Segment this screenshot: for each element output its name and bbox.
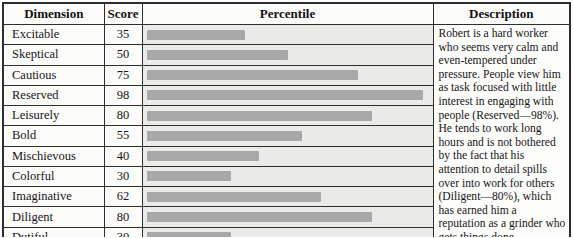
percentile-bar — [147, 50, 288, 60]
dimension-label: Excitable — [3, 25, 104, 45]
description-text: Robert is a hard worker who seems very c… — [433, 25, 570, 238]
dimension-label: Bold — [3, 126, 104, 146]
percentile-bar — [147, 70, 359, 80]
percentile-track — [142, 65, 433, 85]
header-percentile: Percentile — [142, 3, 433, 25]
percentile-bar — [147, 171, 232, 181]
percentile-track — [142, 106, 433, 126]
header-dimension: Dimension — [3, 3, 104, 25]
dimension-label: Leisurely — [3, 106, 104, 126]
table-body: Excitable 35 Robert is a hard worker who… — [3, 25, 570, 238]
percentile-bar — [147, 151, 260, 161]
score-value: 35 — [104, 25, 142, 45]
score-value: 62 — [104, 187, 142, 207]
score-value: 40 — [104, 146, 142, 166]
percentile-bar — [147, 131, 302, 141]
percentile-track — [142, 25, 433, 45]
percentile-track — [142, 187, 433, 207]
percentile-bar — [147, 90, 423, 100]
percentile-bar — [147, 192, 322, 202]
dimension-label: Colorful — [3, 166, 104, 186]
score-value: 80 — [104, 207, 142, 227]
table-row: Excitable 35 Robert is a hard worker who… — [3, 25, 570, 45]
dimension-label: Imaginative — [3, 187, 104, 207]
score-value: 30 — [104, 227, 142, 237]
percentile-bar — [147, 232, 232, 237]
dimension-label: Reserved — [3, 85, 104, 105]
percentile-bar — [147, 111, 373, 121]
percentile-track — [142, 146, 433, 166]
header-description: Description — [433, 3, 570, 25]
score-value: 30 — [104, 166, 142, 186]
dimension-label: Cautious — [3, 65, 104, 85]
percentile-track — [142, 227, 433, 237]
percentile-bar — [147, 212, 373, 222]
personality-profile-table: Dimension Score Percentile Description E… — [2, 2, 571, 237]
dimension-label: Dutiful — [3, 227, 104, 237]
score-value: 80 — [104, 106, 142, 126]
percentile-track — [142, 126, 433, 146]
report-page: Dimension Score Percentile Description E… — [0, 0, 573, 237]
percentile-track — [142, 166, 433, 186]
dimension-label: Skeptical — [3, 45, 104, 65]
score-value: 98 — [104, 85, 142, 105]
percentile-track — [142, 85, 433, 105]
percentile-track — [142, 45, 433, 65]
dimension-label: Diligent — [3, 207, 104, 227]
score-value: 55 — [104, 126, 142, 146]
score-value: 50 — [104, 45, 142, 65]
percentile-track — [142, 207, 433, 227]
percentile-bar — [147, 30, 246, 40]
header-row: Dimension Score Percentile Description — [3, 3, 570, 25]
header-score: Score — [104, 3, 142, 25]
dimension-label: Mischievous — [3, 146, 104, 166]
score-value: 75 — [104, 65, 142, 85]
